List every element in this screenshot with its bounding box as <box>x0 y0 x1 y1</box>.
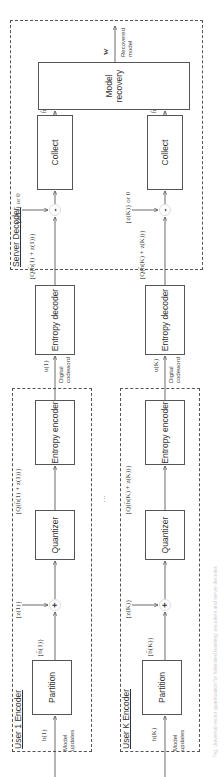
quantizer-block: Quantizer <box>145 510 185 560</box>
user-k-encoder-title: User K Encoder <box>121 689 131 749</box>
recovered-model-symbol: w <box>100 49 110 56</box>
digital-codeword-label: Digital codeword <box>168 353 182 383</box>
dither-symbol: {z(1)} <box>14 601 22 619</box>
codeword-symbol: u(1) <box>42 360 50 372</box>
quantized-output-symbol: {Q(h̃(K) + z(K))} <box>124 465 132 515</box>
recovered-model-label: Recovered model <box>120 23 134 57</box>
quantizer-block: Quantizer <box>35 510 75 560</box>
entropy-encoder-block: Entropy encoder <box>35 400 75 465</box>
entropy-decoder-block: Entropy decoder <box>35 285 75 355</box>
entropy-decoder-block: Entropy decoder <box>145 285 185 355</box>
user-1-encoder-title: User 1 Encoder <box>13 690 23 749</box>
entropy-encoder-block: Entropy encoder <box>145 400 185 465</box>
dither-or-zero-symbol: {z(K)} or 0 <box>124 192 132 224</box>
dither-symbol: {z(K)} <box>124 599 132 619</box>
partition-block: Partition <box>142 660 182 715</box>
subtractor-node: - <box>49 204 61 216</box>
figure-caption: Fig. Universal vector quantization for f… <box>212 565 218 757</box>
decoded-set-symbol: {Q(h̃(1) + z(1))} <box>28 233 36 280</box>
partition-output-symbol: {h̃(K)} <box>146 637 154 657</box>
subtractor-node: - <box>159 204 171 216</box>
partition-output-symbol: {h̃(1)} <box>36 639 44 657</box>
collect-block: Collect <box>147 115 183 190</box>
model-updates-label: Model updates <box>172 717 186 751</box>
digital-codeword-label: Digital codeword <box>58 353 72 383</box>
decoded-set-symbol: {Q(h̃(K) + z(K))} <box>138 230 146 280</box>
codeword-symbol: u(K) <box>152 359 160 372</box>
model-recovery-block: Model recovery <box>38 62 190 110</box>
adder-node: + <box>159 599 171 611</box>
model-updates-label: Model updates <box>62 717 76 751</box>
partition-block: Partition <box>32 660 72 715</box>
input-symbol: h(K) <box>150 728 158 741</box>
collect-block: Collect <box>37 115 73 190</box>
adder-node: + <box>49 599 61 611</box>
diagram: Server Decoder User 1 Encoder User K Enc… <box>0 0 224 777</box>
ellipsis: ⋮ <box>101 495 108 503</box>
input-symbol: h(1) <box>40 729 48 741</box>
dither-or-zero-symbol: {z(1)} or 0 <box>14 193 22 224</box>
quantized-output-symbol: {Q(h̃(1) + z(1))} <box>14 468 22 515</box>
